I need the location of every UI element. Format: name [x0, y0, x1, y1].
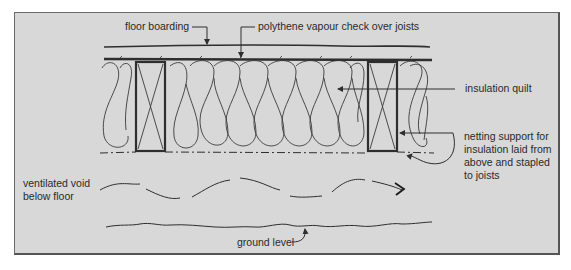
label-ventilated-void: ventilated void below floor	[23, 177, 90, 203]
joist-left	[136, 62, 165, 151]
label-insulation-quilt: insulation quilt	[465, 82, 532, 95]
ground-line	[106, 222, 432, 227]
label-ground-level: ground level	[237, 236, 294, 249]
floor-boarding-leader	[192, 27, 207, 44]
netting-support-leader-2	[411, 133, 454, 164]
floor-boarding	[104, 45, 430, 47]
netting-support	[100, 152, 434, 153]
ventilation-airflow-arrow	[100, 178, 402, 199]
vapour-check-leader	[241, 27, 255, 57]
label-netting-support: netting support for insulation laid from…	[464, 130, 552, 182]
label-floor-boarding: floor boarding	[125, 20, 189, 33]
label-vapour-check: polythene vapour check over joists	[258, 20, 419, 33]
staple-marks	[120, 56, 412, 58]
joist-right	[368, 62, 397, 151]
polythene-vapour-check	[104, 59, 432, 60]
